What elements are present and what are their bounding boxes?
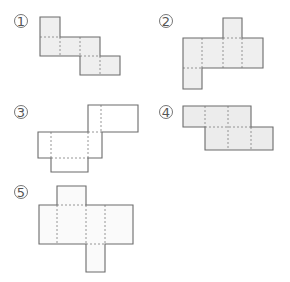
net-figure-1: 1 xyxy=(15,14,121,76)
numeral-label-2: 2 xyxy=(162,14,170,29)
numeral-label-1: 1 xyxy=(17,14,25,29)
net-figure-2: 2 xyxy=(160,14,264,90)
cube-nets-diagram: 1 2 3 4 5 xyxy=(0,0,290,282)
net-figure-3: 3 xyxy=(15,105,139,173)
numeral-label-4: 4 xyxy=(162,105,170,120)
numeral-label-5: 5 xyxy=(17,185,25,200)
numeral-label-3: 3 xyxy=(17,105,25,120)
net-figure-4: 4 xyxy=(160,105,274,151)
net-figure-5: 5 xyxy=(15,185,134,273)
